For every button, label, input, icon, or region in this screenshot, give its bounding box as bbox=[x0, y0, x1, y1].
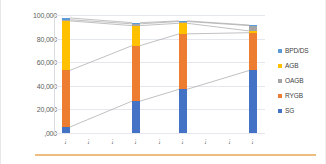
legend-swatch-icon bbox=[278, 64, 282, 68]
x-axis-tick-label: ⱼ bbox=[151, 137, 169, 145]
y-axis-tick-label: ,000 bbox=[0, 130, 57, 137]
series-line-rygb bbox=[140, 34, 179, 46]
y-axis-tick-label: 80,000 bbox=[0, 35, 57, 42]
legend-item-agb[interactable]: AGB bbox=[278, 58, 326, 73]
y-axis-tick-label: 40,000 bbox=[0, 82, 57, 89]
series-line-rygb bbox=[70, 46, 132, 71]
x-axis-tick-label: ⱼ bbox=[127, 137, 145, 145]
x-axis-tick-label: ⱼ bbox=[57, 137, 75, 145]
legend-item-label: SG bbox=[285, 107, 294, 114]
x-axis-tick-label: ⱼ bbox=[244, 137, 262, 145]
x-axis-tick-label: ⱼ bbox=[174, 137, 192, 145]
chart-screenshot: 100,00080,00060,00040,00020,000,000 ⱼⱼⱼⱼ… bbox=[0, 0, 326, 164]
plot-area bbox=[54, 15, 265, 133]
legend-item-sg[interactable]: SG bbox=[278, 103, 326, 118]
x-axis-tick-label: ⱼ bbox=[198, 137, 216, 145]
x-axis-tick-label: ⱼ bbox=[80, 137, 98, 145]
series-line-sg bbox=[140, 89, 179, 101]
gridline bbox=[54, 133, 265, 134]
series-line-rygb bbox=[187, 33, 249, 34]
legend-item-label: RYGB bbox=[285, 92, 303, 99]
legend-swatch-icon bbox=[278, 49, 282, 53]
legend-swatch-icon bbox=[278, 79, 282, 83]
x-axis-tick-label: ⱼ bbox=[221, 137, 239, 145]
chart-legend: BPD/DSAGBOAGBRYGBSG bbox=[278, 43, 326, 118]
legend-item-label: AGB bbox=[285, 62, 298, 69]
y-axis-tick-label: 20,000 bbox=[0, 106, 57, 113]
series-line-sg bbox=[70, 101, 132, 127]
x-axis-tick-label: ⱼ bbox=[104, 137, 122, 145]
series-line-oagb bbox=[187, 21, 249, 25]
legend-swatch-icon bbox=[278, 94, 282, 98]
series-connector-lines bbox=[54, 15, 265, 133]
legend-item-oagb[interactable]: OAGB bbox=[278, 73, 326, 88]
legend-item-label: BPD/DS bbox=[285, 47, 309, 54]
y-axis-tick-label: 60,000 bbox=[0, 59, 57, 66]
legend-swatch-icon bbox=[278, 109, 282, 113]
series-line-sg bbox=[187, 70, 249, 89]
legend-item-bpd-ds[interactable]: BPD/DS bbox=[278, 43, 326, 58]
legend-item-label: OAGB bbox=[285, 77, 303, 84]
y-axis-tick-label: 100,000 bbox=[0, 12, 57, 19]
legend-item-rygb[interactable]: RYGB bbox=[278, 88, 326, 103]
bottom-accent-rule bbox=[35, 154, 316, 156]
